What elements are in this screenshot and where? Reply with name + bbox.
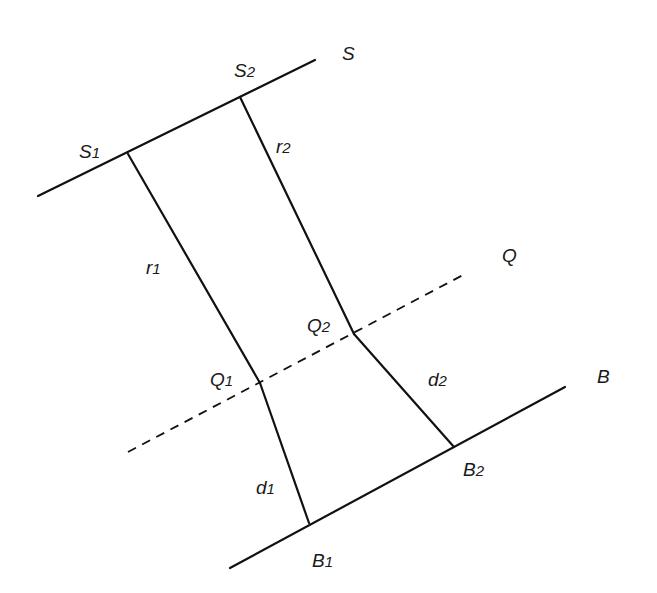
label-r2: r2 xyxy=(276,136,291,157)
label-d2: d2 xyxy=(428,369,448,390)
line-q xyxy=(128,275,463,452)
label-b1: B1 xyxy=(312,550,333,571)
label-q1: Q1 xyxy=(210,369,233,390)
diagram-canvas: S Q B S2 S1 r2 r1 Q2 Q1 d2 d1 B2 B1 xyxy=(0,0,657,593)
line-s xyxy=(38,60,315,196)
segment-d2 xyxy=(354,334,454,447)
label-q: Q xyxy=(502,245,517,266)
label-s2: S2 xyxy=(234,60,256,81)
line-b xyxy=(230,387,565,568)
segment-r2 xyxy=(240,97,354,334)
label-q2: Q2 xyxy=(307,315,331,336)
label-s: S xyxy=(342,43,355,64)
label-b2: B2 xyxy=(463,459,485,480)
label-b: B xyxy=(597,366,610,387)
label-s1: S1 xyxy=(79,141,100,162)
label-d1: d1 xyxy=(256,477,275,498)
segment-d1 xyxy=(260,383,309,523)
label-r1: r1 xyxy=(146,257,161,278)
diagram-svg: S Q B S2 S1 r2 r1 Q2 Q1 d2 d1 B2 B1 xyxy=(0,0,657,593)
